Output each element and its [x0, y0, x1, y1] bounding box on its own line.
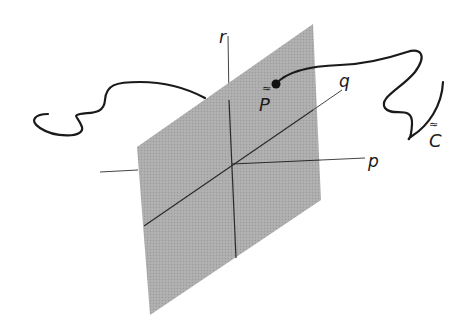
diagram-canvas: r q p ≈ P ≈ C [0, 0, 465, 330]
plane [137, 24, 321, 315]
point-p-label: P [259, 94, 270, 115]
q-axis-label: q [339, 71, 350, 91]
p-axis-back-segment [100, 170, 138, 172]
point-p-marker [272, 80, 281, 89]
q-axis-front-segment [313, 90, 342, 110]
p-axis-label: p [367, 151, 379, 171]
p-axis-front-segment [321, 158, 365, 160]
curve-c-label: C [429, 130, 442, 151]
r-axis-label: r [219, 27, 227, 47]
